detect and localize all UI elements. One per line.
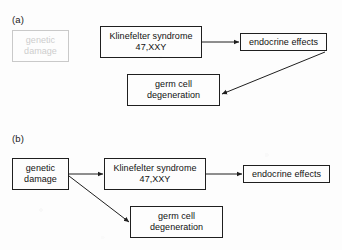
arrow-endocrine-to-germ-cell-a	[222, 52, 325, 94]
node-klinefelter-syndrome-b[interactable]: Klinefelter syndrome 47,XXY	[104, 158, 206, 190]
node-germ-cell-degeneration-b[interactable]: germ cell degeneration	[130, 206, 223, 238]
node-genetic-damage-b[interactable]: genetic damage	[12, 158, 69, 190]
panel-label-a: (a)	[12, 14, 24, 25]
node-label: Klinefelter syndrome 47,XXY	[113, 163, 196, 185]
node-klinefelter-syndrome-a[interactable]: Klinefelter syndrome 47,XXY	[100, 26, 202, 58]
node-endocrine-effects-b[interactable]: endocrine effects	[243, 165, 330, 183]
node-label: germ cell degeneration	[150, 211, 203, 233]
panel-label-b: (b)	[12, 133, 24, 144]
node-genetic-damage-a[interactable]: genetic damage	[12, 30, 69, 62]
node-label: Klinefelter syndrome 47,XXY	[109, 31, 192, 53]
node-label: endocrine effects	[252, 169, 321, 180]
node-label: germ cell degeneration	[147, 79, 200, 101]
node-endocrine-effects-a[interactable]: endocrine effects	[240, 33, 327, 51]
node-germ-cell-degeneration-a[interactable]: germ cell degeneration	[127, 74, 220, 106]
node-label: genetic damage	[24, 163, 57, 185]
figure-root: (a) genetic damage Klinefelter syndrome …	[0, 0, 342, 250]
node-label: genetic damage	[24, 35, 57, 57]
node-label: endocrine effects	[249, 37, 318, 48]
